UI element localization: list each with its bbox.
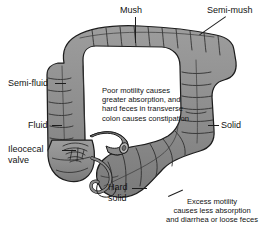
leader-solid [208,125,219,126]
note-excess-motility: Excess motility causes less absorption a… [156,197,268,225]
ileum-segment [90,132,130,155]
label-solid: Solid [221,120,241,131]
leader-fluid [52,125,62,126]
label-semi-mush: Semi-mush [207,5,253,16]
cecum [48,140,94,182]
label-semi-fluid: Semi-fluid [8,78,48,89]
leader-mush [135,17,136,43]
label-ileocecal-valve: Ileocecal valve [8,144,44,165]
label-fluid: Fluid [28,120,48,131]
leader-hard-solid [132,188,147,189]
label-mush: Mush [120,5,142,16]
note-poor-motility: Poor motility causes greater absorption,… [102,86,189,123]
leader-ileocecal-valve [62,150,76,151]
leader-semi-fluid [55,83,66,84]
label-hard-solid: Hard solid [108,182,128,203]
colon-consistency-figure: Mush Semi-mush Semi-fluid Fluid Solid Il… [0,0,270,236]
